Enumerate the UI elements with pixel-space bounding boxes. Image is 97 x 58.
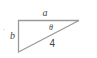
dot-mark: · <box>3 26 5 32</box>
label-hypotenuse: 4 <box>50 38 56 49</box>
label-angle: θ <box>49 23 53 32</box>
triangle-diagram: · a b θ 4 <box>0 0 97 58</box>
label-left-side: b <box>10 30 15 41</box>
label-top-side: a <box>43 7 48 18</box>
